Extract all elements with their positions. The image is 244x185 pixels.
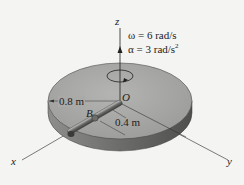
- x-axis-label: x: [11, 156, 16, 167]
- z-axis-label: z: [115, 16, 119, 27]
- diagram-canvas: z x y ω = 6 rad/s α = 3 rad/s2 O 0.8 m B…: [0, 0, 244, 185]
- alpha-exponent: 2: [175, 42, 179, 50]
- origin-label: O: [122, 92, 130, 103]
- radius-dimension-label: 0.8 m: [58, 96, 85, 107]
- alpha-label: α = 3 rad/s2: [128, 43, 179, 55]
- collar-label: B: [86, 108, 93, 119]
- y-axis-label: y: [227, 156, 232, 167]
- offset-dimension-label: 0.4 m: [115, 117, 140, 128]
- z-axis-arrowhead: [118, 46, 123, 53]
- rod-end: [68, 131, 75, 137]
- omega-label: ω = 6 rad/s: [128, 30, 177, 41]
- alpha-value: α = 3 rad/s: [128, 43, 175, 55]
